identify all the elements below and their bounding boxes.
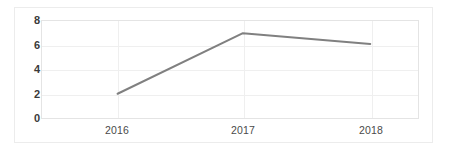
y-axis-tick-0: 0 [16, 113, 40, 124]
y-axis-tick-8: 8 [16, 15, 40, 26]
x-axis-tick-2017: 2017 [231, 125, 255, 136]
y-axis-tick-4: 4 [16, 64, 40, 75]
series-line-chart [42, 21, 418, 118]
y-axis-tick-6: 6 [16, 39, 40, 50]
chart-canvas: 8 6 4 2 0 2016 2017 2018 [15, 8, 432, 142]
plot-area [41, 20, 419, 119]
x-axis-tick-2018: 2018 [359, 125, 383, 136]
series-1-line [118, 33, 371, 94]
chart-frame: 8 6 4 2 0 2016 2017 2018 [14, 7, 433, 143]
x-axis-tick-2016: 2016 [105, 125, 129, 136]
y-axis-tick-2: 2 [16, 88, 40, 99]
